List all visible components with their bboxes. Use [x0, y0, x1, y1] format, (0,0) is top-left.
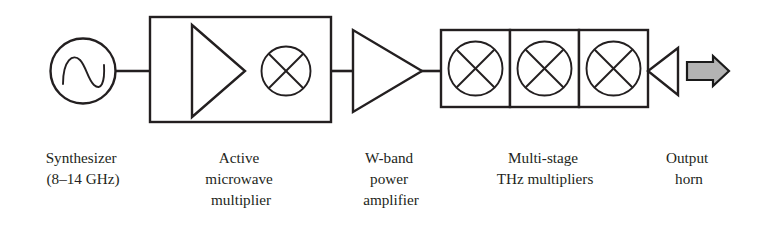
mixer-symbol-stage3 — [518, 42, 572, 96]
output-horn-symbol — [648, 48, 729, 95]
horn-triangle — [648, 48, 678, 95]
mixer-symbol-stage2 — [449, 42, 503, 96]
caption-wband-amplifier: W-band power amplifier — [363, 149, 419, 208]
caption-thz-multipliers: Multi-stage THz multipliers — [497, 149, 594, 187]
active-microwave-multiplier-symbol — [150, 17, 331, 122]
synthesizer-symbol — [51, 39, 116, 104]
block-diagram-figure: Synthesizer (8–14 GHz) Active microwave … — [0, 0, 761, 239]
caption-active-multiplier: Active microwave multiplier — [205, 149, 276, 208]
caption-synthesizer: Synthesizer (8–14 GHz) — [46, 149, 121, 188]
beam-arrow-icon — [687, 56, 729, 86]
block-captions: Synthesizer (8–14 GHz) Active microwave … — [46, 149, 712, 208]
caption-output-horn: Output horn — [666, 149, 712, 187]
wband-power-amplifier-symbol — [353, 30, 422, 112]
block-diagram-canvas: Synthesizer (8–14 GHz) Active microwave … — [0, 0, 761, 239]
mixer-symbol-stage4 — [587, 42, 641, 96]
amplifier-triangle-icon — [353, 30, 422, 112]
mixer-symbol-stage1 — [262, 47, 311, 96]
synthesizer-circle — [51, 39, 116, 104]
thz-multipliers-symbol — [441, 30, 648, 107]
